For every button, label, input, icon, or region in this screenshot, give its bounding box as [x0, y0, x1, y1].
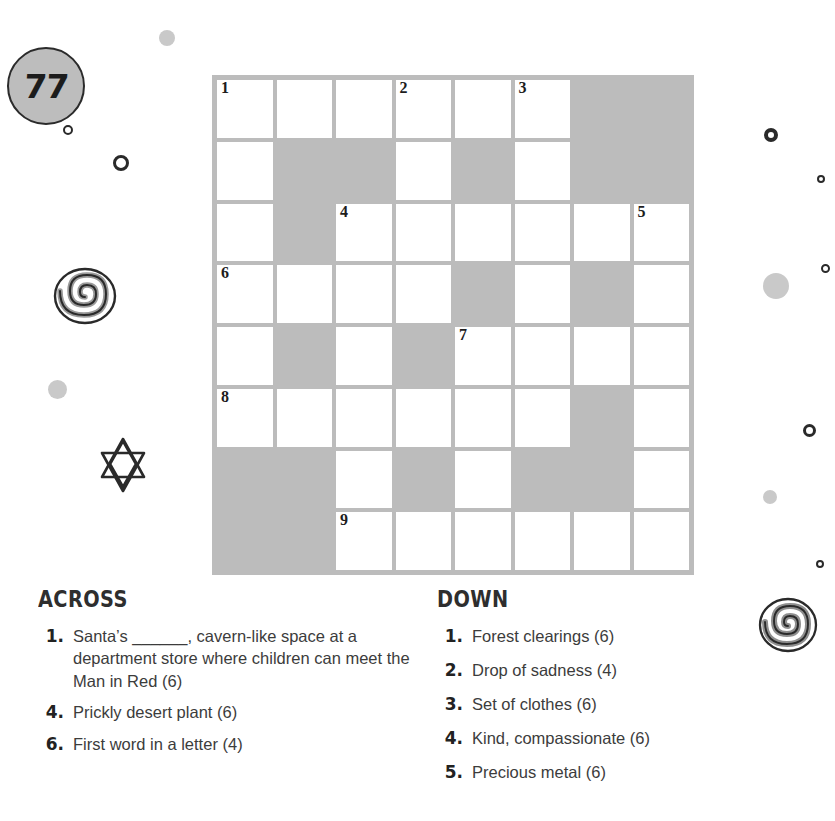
- gray-dot-top-left: [159, 30, 175, 46]
- grid-open-cell[interactable]: [515, 142, 571, 200]
- grid-open-cell[interactable]: 1: [217, 80, 273, 138]
- ring-left: [113, 155, 129, 171]
- across-heading: ACROSS: [38, 586, 366, 612]
- grid-open-cell[interactable]: 6: [217, 265, 273, 323]
- down-clue-item[interactable]: 2.Drop of sadness (4): [437, 659, 797, 682]
- grid-open-cell[interactable]: [634, 389, 690, 447]
- grid-open-cell[interactable]: [455, 204, 511, 262]
- grid-block-cell: [277, 204, 333, 262]
- grid-clue-number: 1: [221, 80, 229, 97]
- star-doodle-left: [98, 437, 148, 495]
- grid-open-cell[interactable]: [336, 451, 392, 509]
- grid-open-cell[interactable]: 5: [634, 204, 690, 262]
- grid-open-cell[interactable]: [396, 389, 452, 447]
- down-clue-text: Forest clearings (6): [472, 625, 797, 647]
- across-clue-text: Prickly desert plant (6): [73, 701, 428, 723]
- grid-clue-number: 7: [459, 327, 467, 344]
- grid-open-cell[interactable]: [634, 265, 690, 323]
- grid-block-cell: [396, 327, 452, 385]
- grid-open-cell[interactable]: [574, 327, 630, 385]
- ring-right-lower: [803, 424, 816, 437]
- down-clue-item[interactable]: 3.Set of clothes (6): [437, 693, 797, 716]
- grid-open-cell[interactable]: 2: [396, 80, 452, 138]
- across-clue-item[interactable]: 4.Prickly desert plant (6): [38, 701, 428, 724]
- down-clue-text: Precious metal (6): [472, 761, 797, 783]
- grid-open-cell[interactable]: [634, 451, 690, 509]
- down-clue-column: DOWN 1.Forest clearings (6)2.Drop of sad…: [437, 586, 797, 796]
- grid-block-cell: [277, 451, 333, 509]
- grid-open-cell[interactable]: 7: [455, 327, 511, 385]
- down-heading: DOWN: [437, 586, 739, 612]
- page-number-badge: 77: [7, 47, 85, 125]
- clues-section: ACROSS 1.Santa’s ______, cavern-like spa…: [0, 586, 835, 821]
- grid-open-cell[interactable]: [217, 327, 273, 385]
- across-clue-text: First word in a letter (4): [73, 733, 428, 755]
- grid-block-cell: [277, 142, 333, 200]
- across-clue-item[interactable]: 1.Santa’s ______, cavern-like space at a…: [38, 625, 428, 692]
- grid-clue-number: 6: [221, 265, 229, 282]
- down-clue-item[interactable]: 1.Forest clearings (6): [437, 625, 797, 648]
- grid-open-cell[interactable]: [574, 512, 630, 570]
- grid-block-cell: [634, 80, 690, 138]
- grid-block-cell: [574, 389, 630, 447]
- page-number-label: 77: [23, 67, 70, 106]
- grid-open-cell[interactable]: [217, 204, 273, 262]
- grid-block-cell: [336, 142, 392, 200]
- grid-open-cell[interactable]: [277, 265, 333, 323]
- across-clue-list: 1.Santa’s ______, cavern-like space at a…: [38, 625, 428, 757]
- grid-open-cell[interactable]: [217, 142, 273, 200]
- grid-block-cell: [574, 80, 630, 138]
- grid-open-cell[interactable]: [336, 389, 392, 447]
- grid-block-cell: [396, 451, 452, 509]
- gray-dot-left: [48, 380, 67, 399]
- grid-open-cell[interactable]: [396, 142, 452, 200]
- grid-open-cell[interactable]: [455, 389, 511, 447]
- grid-block-cell: [277, 512, 333, 570]
- tiny-ring-right-top: [817, 175, 825, 183]
- grid-open-cell[interactable]: [455, 451, 511, 509]
- down-clue-text: Kind, compassionate (6): [472, 727, 797, 749]
- down-clue-item[interactable]: 5.Precious metal (6): [437, 761, 797, 784]
- down-clue-number: 4.: [437, 727, 472, 750]
- across-clue-item[interactable]: 6.First word in a letter (4): [38, 733, 428, 756]
- grid-clue-number: 8: [221, 389, 229, 406]
- grid-block-cell: [217, 512, 273, 570]
- grid-open-cell[interactable]: [574, 204, 630, 262]
- down-clue-list: 1.Forest clearings (6)2.Drop of sadness …: [437, 625, 797, 785]
- down-clue-number: 1.: [437, 625, 472, 648]
- grid-open-cell[interactable]: [396, 204, 452, 262]
- grid-clue-number: 5: [638, 204, 646, 221]
- grid-open-cell[interactable]: [277, 80, 333, 138]
- grid-open-cell[interactable]: 3: [515, 80, 571, 138]
- grid-clue-number: 9: [340, 512, 348, 529]
- grid-open-cell[interactable]: [336, 265, 392, 323]
- down-clue-item[interactable]: 4.Kind, compassionate (6): [437, 727, 797, 750]
- grid-open-cell[interactable]: 9: [336, 512, 392, 570]
- grid-block-cell: [277, 327, 333, 385]
- grid-open-cell[interactable]: [515, 389, 571, 447]
- grid-open-cell[interactable]: [336, 327, 392, 385]
- gray-dot-right-lower: [763, 490, 777, 504]
- spiral-doodle-left: [52, 266, 118, 328]
- tiny-ring-right-mid: [821, 264, 830, 273]
- grid-open-cell[interactable]: [455, 512, 511, 570]
- grid-open-cell[interactable]: [515, 512, 571, 570]
- grid-open-cell[interactable]: [396, 265, 452, 323]
- down-clue-number: 5.: [437, 761, 472, 784]
- gray-dot-right: [763, 273, 789, 299]
- across-clue-number: 4.: [38, 701, 73, 724]
- grid-open-cell[interactable]: 4: [336, 204, 392, 262]
- grid-open-cell[interactable]: [515, 204, 571, 262]
- grid-open-cell[interactable]: [277, 389, 333, 447]
- grid-block-cell: [217, 451, 273, 509]
- grid-open-cell[interactable]: [515, 327, 571, 385]
- grid-clue-number: 4: [340, 204, 348, 221]
- grid-open-cell[interactable]: [455, 80, 511, 138]
- grid-open-cell[interactable]: [634, 512, 690, 570]
- grid-open-cell[interactable]: [336, 80, 392, 138]
- grid-open-cell[interactable]: [515, 265, 571, 323]
- grid-open-cell[interactable]: 8: [217, 389, 273, 447]
- grid-open-cell[interactable]: [634, 327, 690, 385]
- crossword-grid[interactable]: 123456789: [212, 75, 694, 575]
- grid-open-cell[interactable]: [396, 512, 452, 570]
